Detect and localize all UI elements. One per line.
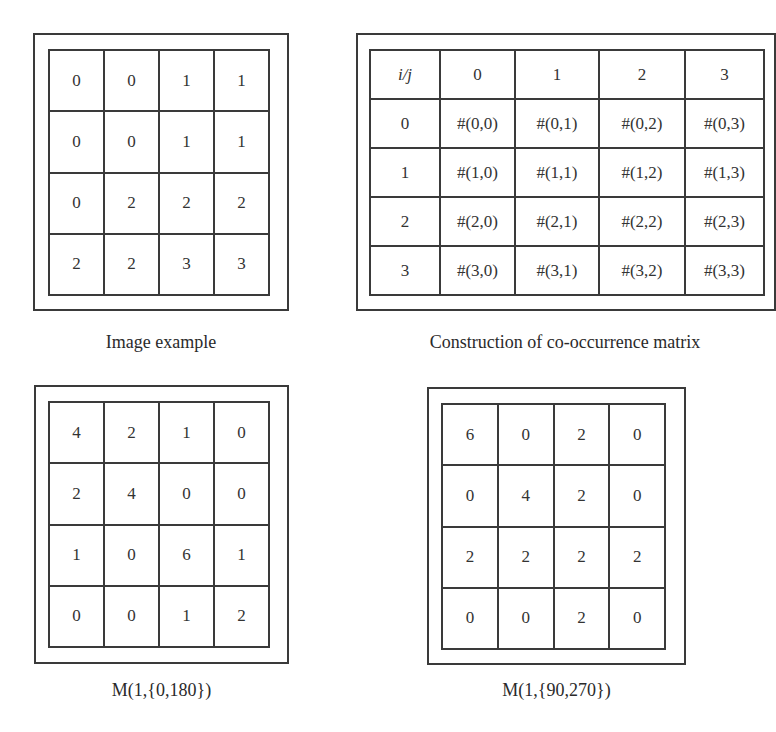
table-row: 0 0 1 1 — [49, 111, 269, 172]
table-row: 1 0 6 1 — [49, 525, 269, 586]
row-header: 0 — [370, 99, 440, 148]
cell: 0 — [104, 50, 159, 111]
table-row: 2 #(2,0) #(2,1) #(2,2) #(2,3) — [370, 197, 764, 246]
cell: 0 — [609, 588, 665, 649]
cell: 1 — [214, 111, 269, 172]
cell: #(0,3) — [685, 99, 764, 148]
cell: #(1,2) — [599, 148, 685, 197]
cell: #(2,0) — [440, 197, 515, 246]
cell: #(1,1) — [515, 148, 599, 197]
cell: 0 — [104, 111, 159, 172]
cell: #(3,2) — [599, 246, 685, 295]
cell: 2 — [554, 527, 610, 588]
cell: 1 — [159, 402, 214, 463]
table-row: 1 #(1,0) #(1,1) #(1,2) #(1,3) — [370, 148, 764, 197]
cell: 0 — [609, 465, 665, 526]
cell: 2 — [442, 527, 498, 588]
cell: #(3,1) — [515, 246, 599, 295]
cell: 2 — [609, 527, 665, 588]
cell: 0 — [159, 463, 214, 524]
construction-grid: i/j 0 1 2 3 0 #(0,0) #(0,1) #(0,2) #(0,3… — [369, 49, 765, 296]
cell: 3 — [159, 234, 214, 295]
row-header: 2 — [370, 197, 440, 246]
table-row: 0 0 1 1 — [49, 50, 269, 111]
table-row: 0 #(0,0) #(0,1) #(0,2) #(0,3) — [370, 99, 764, 148]
table-row: 0 0 1 2 — [49, 586, 269, 647]
cell: 2 — [104, 402, 159, 463]
cell: 1 — [159, 586, 214, 647]
m-0-180-caption: M(1,{0,180}) — [34, 680, 289, 701]
cell: 2 — [214, 173, 269, 234]
cell: 2 — [554, 404, 610, 465]
cell: 0 — [609, 404, 665, 465]
table-row: 0 2 2 2 — [49, 173, 269, 234]
construction-caption: Construction of co-occurrence matrix — [380, 332, 750, 353]
cell: 2 — [554, 465, 610, 526]
cell: 0 — [49, 173, 104, 234]
cell: #(3,3) — [685, 246, 764, 295]
table-row: 0 0 2 0 — [442, 588, 665, 649]
cell: 0 — [49, 111, 104, 172]
cell: 0 — [214, 463, 269, 524]
cell: 2 — [214, 586, 269, 647]
corner-label: i/j — [370, 50, 440, 99]
cell: 0 — [442, 588, 498, 649]
cell: 0 — [49, 586, 104, 647]
cell: 0 — [49, 50, 104, 111]
cell: 2 — [49, 463, 104, 524]
cell: 2 — [159, 173, 214, 234]
cell: #(0,0) — [440, 99, 515, 148]
image-example-grid: 0 0 1 1 0 0 1 1 0 2 2 2 2 2 3 3 — [48, 49, 270, 296]
cell: #(1,3) — [685, 148, 764, 197]
m-0-180-grid: 4 2 1 0 2 4 0 0 1 0 6 1 0 0 1 2 — [48, 401, 270, 648]
cell: #(3,0) — [440, 246, 515, 295]
cell: 1 — [159, 111, 214, 172]
column-header: 2 — [599, 50, 685, 99]
cell: 0 — [498, 404, 554, 465]
m-90-270-caption: M(1,{90,270}) — [427, 680, 686, 701]
cell: 0 — [214, 402, 269, 463]
table-row: 3 #(3,0) #(3,1) #(3,2) #(3,3) — [370, 246, 764, 295]
image-example-caption: Image example — [33, 332, 289, 353]
column-header: 0 — [440, 50, 515, 99]
cell: 2 — [554, 588, 610, 649]
column-header: 3 — [685, 50, 764, 99]
cell: #(1,0) — [440, 148, 515, 197]
cell: 1 — [214, 525, 269, 586]
cell: #(0,1) — [515, 99, 599, 148]
table-row: 2 4 0 0 — [49, 463, 269, 524]
cell: 1 — [214, 50, 269, 111]
table-row: 2 2 2 2 — [442, 527, 665, 588]
column-header: 1 — [515, 50, 599, 99]
cell: 2 — [104, 234, 159, 295]
row-header: 3 — [370, 246, 440, 295]
cell: 4 — [49, 402, 104, 463]
cell: 0 — [104, 586, 159, 647]
m-90-270-grid: 6 0 2 0 0 4 2 0 2 2 2 2 0 0 2 0 — [441, 403, 666, 650]
cell: 6 — [442, 404, 498, 465]
cell: #(0,2) — [599, 99, 685, 148]
cell: #(2,3) — [685, 197, 764, 246]
row-header: 1 — [370, 148, 440, 197]
cell: 4 — [498, 465, 554, 526]
cell: 0 — [442, 465, 498, 526]
cell: 1 — [159, 50, 214, 111]
cell: 3 — [214, 234, 269, 295]
table-row: 0 4 2 0 — [442, 465, 665, 526]
cell: 2 — [104, 173, 159, 234]
table-row: 2 2 3 3 — [49, 234, 269, 295]
cell: #(2,1) — [515, 197, 599, 246]
cell: 6 — [159, 525, 214, 586]
cell: 2 — [498, 527, 554, 588]
cell: 1 — [49, 525, 104, 586]
header-row: i/j 0 1 2 3 — [370, 50, 764, 99]
cell: 4 — [104, 463, 159, 524]
table-row: 6 0 2 0 — [442, 404, 665, 465]
cell: #(2,2) — [599, 197, 685, 246]
cell: 0 — [104, 525, 159, 586]
cell: 0 — [498, 588, 554, 649]
table-row: 4 2 1 0 — [49, 402, 269, 463]
cell: 2 — [49, 234, 104, 295]
